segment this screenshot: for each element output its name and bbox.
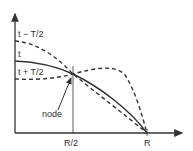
curve-t-minus-half-period [15, 41, 147, 133]
diagram-svg: t − T/2 t t + T/2 node R/2 R [0, 0, 193, 151]
label-t-minus-half: t − T/2 [18, 29, 44, 39]
standing-wave-diagram: t − T/2 t t + T/2 node R/2 R [0, 0, 193, 151]
tick-half-radius: R/2 [64, 138, 78, 148]
label-node: node [42, 109, 62, 119]
label-t: t [18, 49, 21, 59]
node-arrow [58, 78, 71, 110]
label-t-plus-half: t + T/2 [18, 67, 44, 77]
tick-radius: R [144, 138, 151, 148]
